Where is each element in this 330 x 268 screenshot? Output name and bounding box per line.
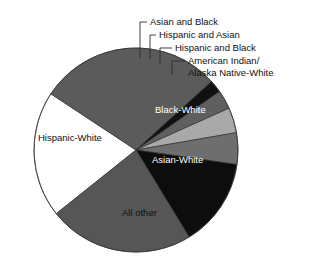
pie-slices [34,48,238,252]
pie-chart-figure: Asian and Black Hispanic and Asian Hispa… [0,0,330,268]
slice-label-hispanic-white: Hispanic-White [38,132,102,143]
callout-label-american-indian-line1: American Indian/ [188,55,260,66]
slice-label-all-other: All other [122,207,157,218]
slice-label-black-white: Black-White [155,104,206,115]
callout-label-hispanic-and-black: Hispanic and Black [175,42,256,53]
callout-label-asian-and-black: Asian and Black [150,16,218,27]
callout-label-hispanic-and-asian: Hispanic and Asian [159,29,240,40]
callout-label-american-indian-line2: Alaska Native-White [188,67,274,78]
slice-label-asian-white: Asian-White [152,154,203,165]
pie-chart-svg: Asian and Black Hispanic and Asian Hispa… [0,0,330,268]
